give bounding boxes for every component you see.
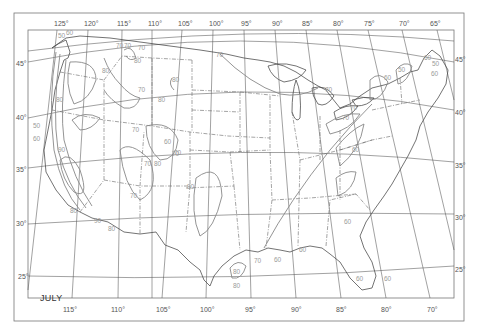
lon-label: 75° [364,20,375,27]
contour-label: 50 [432,60,440,67]
month-title: JULY [40,293,63,303]
contour-label: 70 [138,44,146,51]
contour-label: 60 [299,246,307,253]
state-boundaries [52,56,420,250]
lat-label: 35° [455,162,466,169]
contour-label: 70 [144,160,152,167]
contour-label: 60 [164,138,172,145]
contour-label: 70 [325,86,333,93]
longitude-labels-bottom: 115° 110° 105° 100° 95° 90° 85° 80° 70° [63,306,438,313]
inner-frame [28,30,454,298]
lon-label: 110° [148,20,162,27]
contour-label: 70 [342,114,350,121]
map-figure: 125° 120° 115° 110° 105° 100° 95° 90° 85… [0,0,479,333]
lon-label: 120° [84,20,99,27]
lat-label: 35° [16,166,27,173]
lon-label: 95° [241,20,252,27]
lat-label: 30° [455,214,466,221]
contour-label: 60 [66,29,74,36]
contour-label: 80 [158,96,166,103]
lat-label: 45° [455,56,466,63]
lon-label: 65° [430,20,441,27]
contour-label: 80 [233,282,241,289]
lat-label: 30° [16,220,27,227]
lon-label: 110° [111,306,125,313]
contour-label: 60 [344,218,352,225]
contour-label: 60 [33,135,41,142]
lon-label: 70° [399,20,410,27]
contour-label: 60 [424,54,432,61]
contour-lines [51,48,412,278]
lon-label: 95° [245,306,256,313]
latitude-lines [28,33,454,277]
lon-label: 85° [302,20,313,27]
lon-label: 115° [117,20,131,27]
contour-label: 70 [174,149,182,156]
lon-label: 105° [178,20,193,27]
contour-labels: 50 60 70 70 70 80 80 80 80 70 70 70 80 5… [33,29,440,289]
contour-label: 60 [384,275,392,282]
contour-label: 80 [102,67,110,74]
lat-label: 40° [455,109,466,116]
contour-label: 70 [216,51,224,58]
us-contour-map: 125° 120° 115° 110° 105° 100° 95° 90° 85… [0,0,479,333]
contour-label: 60 [274,256,282,263]
lon-label: 100° [200,306,215,313]
contour-label: 60 [356,275,364,282]
lon-label: 90° [291,306,302,313]
contour-label: 60 [352,146,360,153]
contour-label: 70 [350,104,358,111]
contour-label: 80 [154,160,162,167]
lon-label: 125° [54,20,69,27]
lat-label: 40° [16,114,27,121]
lon-label: 115° [63,306,77,313]
contour-label: 90 [94,217,102,224]
lon-label: 70° [427,306,438,313]
lat-label: 25° [18,273,29,280]
longitude-lines [28,30,454,298]
contour-label: 60 [431,70,439,77]
contour-label: 80 [172,76,180,83]
contour-label: 70 [132,126,140,133]
lon-label: 80° [381,306,392,313]
longitude-labels-top: 125° 120° 115° 110° 105° 100° 95° 90° 85… [54,20,441,27]
lon-label: 90° [272,20,283,27]
contour-label: 80 [70,207,78,214]
contour-label: 50 [33,122,41,129]
contour-label: 80 [134,57,142,64]
contour-label: 50 [398,66,406,73]
lon-label: 80° [333,20,344,27]
contour-label: 70 [254,257,262,264]
contour-label: 60 [384,74,392,81]
contour-label: 80 [56,96,64,103]
lat-label: 25° [455,266,466,273]
lon-label: 100° [209,20,224,27]
lon-label: 105° [156,306,171,313]
contour-label: 70 [124,42,132,49]
contour-label: 80 [233,268,241,275]
contour-label: 70 [130,192,138,199]
lat-label: 45° [16,60,27,67]
contour-label: 80 [108,225,116,232]
contour-label: 90 [58,146,66,153]
contour-label: 70 [116,42,124,49]
contour-label: 70 [138,86,146,93]
contour-label: 80 [187,183,195,190]
contour-label: 50 [58,32,66,39]
lon-label: 85° [336,306,347,313]
latitude-labels-left: 45° 40° 35° 30° 25° [16,60,29,280]
